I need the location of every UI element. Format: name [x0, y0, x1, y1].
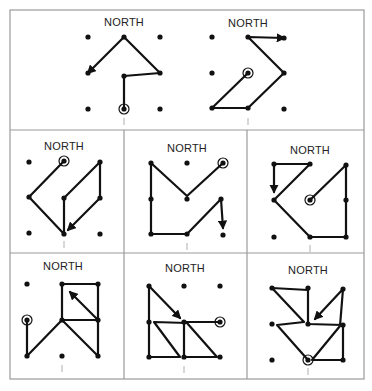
grid-dot — [269, 321, 274, 326]
grid-dot — [245, 70, 250, 75]
grid-dot — [157, 34, 162, 39]
grid-dot — [157, 70, 162, 75]
grid-dot — [146, 283, 151, 288]
panel-row2-col1: NORTH — [26, 140, 102, 248]
grid-dot — [97, 159, 102, 164]
grid-dot — [271, 197, 276, 202]
grid-dot — [181, 319, 186, 324]
north-label: NORTH — [165, 262, 205, 274]
grid-dot — [271, 234, 276, 239]
panel-row3-col1: NORTH — [22, 260, 101, 372]
grid-dot — [209, 105, 214, 110]
panel-row2-col3: NORTH — [271, 144, 348, 252]
grid-dot — [181, 354, 186, 359]
grid-dot — [59, 353, 64, 358]
grid-dot — [146, 319, 151, 324]
grid-dot — [24, 281, 29, 286]
grid-dot — [281, 35, 286, 40]
grid-dot — [305, 357, 310, 362]
grid-dot — [245, 105, 250, 110]
grid-dot — [340, 286, 345, 291]
grid-dot — [271, 161, 276, 166]
north-label: NORTH — [288, 264, 328, 276]
grid-dot — [245, 34, 250, 39]
grid-dot — [343, 162, 348, 167]
grid-dot — [217, 319, 222, 324]
grid-dot — [95, 353, 100, 358]
grid-dot — [307, 197, 312, 202]
grid-dot — [305, 285, 310, 290]
grid-dot — [24, 353, 29, 358]
grid-dot — [148, 196, 153, 201]
grid-dot — [217, 354, 222, 359]
grid-dot — [59, 281, 64, 286]
grid-dot — [307, 161, 312, 166]
grid-dot — [181, 283, 186, 288]
panel-row3-col2: NORTH — [146, 262, 225, 373]
grid-dot — [97, 195, 102, 200]
north-label: NORTH — [228, 17, 268, 29]
north-label: NORTH — [44, 140, 84, 152]
grid-dot — [157, 106, 162, 111]
grid-dot — [307, 234, 312, 239]
north-path-diagram: NORTHNORTHNORTHNORTHNORTHNORTHNORTHNORTH — [0, 0, 372, 391]
grid-dot — [340, 357, 345, 362]
route-path — [88, 37, 160, 109]
grid-dot — [146, 354, 151, 359]
grid-dot — [61, 158, 66, 163]
grid-dot — [97, 231, 102, 236]
grid-dot — [148, 231, 153, 236]
grid-dot — [24, 317, 29, 322]
grid-dot — [26, 159, 31, 164]
grid-dot — [281, 106, 286, 111]
grid-dot — [209, 70, 214, 75]
panel-row1-col1: NORTH — [85, 16, 162, 125]
grid-dot — [209, 34, 214, 39]
grid-dot — [121, 34, 126, 39]
grid-dot — [121, 73, 126, 78]
grid-dot — [59, 317, 64, 322]
grid-dot — [95, 281, 100, 286]
panels: NORTHNORTHNORTHNORTHNORTHNORTHNORTHNORTH — [22, 16, 349, 375]
grid-dot — [26, 230, 31, 235]
panel-row3-col3: NORTH — [269, 264, 345, 375]
grid-dot — [121, 106, 126, 111]
grid-dot — [26, 194, 31, 199]
grid-dot — [269, 357, 274, 362]
grid-dot — [220, 232, 225, 237]
grid-dot — [343, 197, 348, 202]
grid-dot — [184, 196, 189, 201]
grid-dot — [85, 106, 90, 111]
grid-dot — [340, 322, 345, 327]
grid-dot — [85, 70, 90, 75]
north-label: NORTH — [290, 144, 330, 156]
grid-dot — [217, 283, 222, 288]
panel-row1-col2: NORTH — [209, 17, 286, 125]
grid-dot — [95, 317, 100, 322]
grid-dot — [61, 195, 66, 200]
north-label: NORTH — [43, 260, 83, 272]
grid-dot — [305, 321, 310, 326]
grid-dot — [269, 285, 274, 290]
grid-dot — [61, 231, 66, 236]
north-label: NORTH — [167, 142, 207, 154]
grid-dot — [184, 231, 189, 236]
grid-dot — [85, 34, 90, 39]
grid-dot — [148, 160, 153, 165]
north-label: NORTH — [104, 16, 144, 28]
grid-dot — [343, 234, 348, 239]
grid-dot — [281, 70, 286, 75]
grid-dot — [184, 160, 189, 165]
panel-row2-col2: NORTH — [148, 142, 228, 250]
grid-dot — [220, 160, 225, 165]
grid-dot — [218, 196, 223, 201]
